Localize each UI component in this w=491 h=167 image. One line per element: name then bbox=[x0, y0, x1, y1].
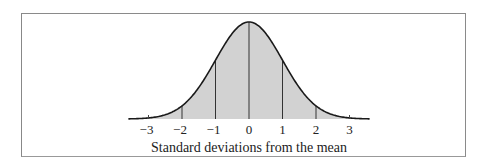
tick-label: −1 bbox=[207, 122, 221, 137]
tick-label: 2 bbox=[313, 122, 320, 137]
tick-label: 1 bbox=[279, 122, 286, 137]
tick-label: 3 bbox=[346, 122, 353, 137]
tick-label: −3 bbox=[140, 122, 154, 137]
tick-label: −2 bbox=[173, 122, 187, 137]
x-axis-title: Standard deviations from the mean bbox=[151, 140, 347, 155]
tick-label: 0 bbox=[246, 122, 253, 137]
x-axis-tick-labels: −3−2−10123 bbox=[140, 122, 353, 137]
normal-distribution-chart: −3−2−10123 Standard deviations from the … bbox=[0, 0, 491, 167]
